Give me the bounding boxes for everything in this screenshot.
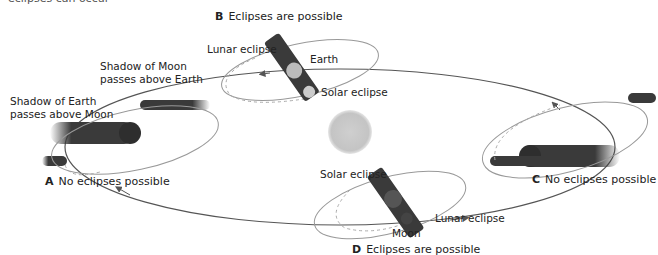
label-line: passes above Moon <box>10 108 113 120</box>
label-moon: Moon <box>392 227 421 240</box>
caption-text: No eclipses possible <box>59 175 170 188</box>
panel-letter: B <box>215 10 223 23</box>
caption-text: No eclipses possible <box>545 173 656 186</box>
panel-letter: D <box>352 243 361 255</box>
sun <box>328 110 372 154</box>
label-moon-shadow: Shadow of Moon passes above Earth <box>100 60 203 86</box>
label-solar-eclipse-b: Solar eclipse <box>321 86 388 99</box>
caption-text: Eclipses are possible <box>366 243 480 255</box>
label-line: Shadow of Earth <box>10 95 96 107</box>
label-line: Shadow of Moon <box>100 60 187 72</box>
label-earth-shadow: Shadow of Earth passes above Moon <box>10 95 113 121</box>
eclipse-orbit-diagram <box>0 0 658 255</box>
caption-c: CNo eclipses possible <box>532 173 656 186</box>
caption-b: BEclipses are possible <box>215 10 343 23</box>
label-line: passes above Earth <box>100 73 203 85</box>
caption-a: ANo eclipses possible <box>45 175 170 188</box>
caption-text: Eclipses are possible <box>228 10 342 23</box>
panel-letter: A <box>45 175 54 188</box>
label-lunar-eclipse-d: Lunar eclipse <box>435 212 505 225</box>
label-solar-eclipse-d: Solar eclipse <box>320 168 387 181</box>
caption-d: DEclipses are possible <box>352 243 480 255</box>
panel-letter: C <box>532 173 540 186</box>
label-lunar-eclipse-b: Lunar eclipse <box>207 43 277 56</box>
label-earth: Earth <box>310 53 338 66</box>
